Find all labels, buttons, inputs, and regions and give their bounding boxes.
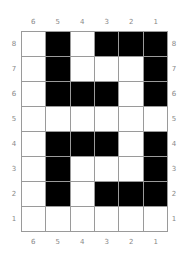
grid-cell-r7-c2 bbox=[119, 57, 142, 81]
grid-cell-r7-c4 bbox=[71, 57, 94, 81]
column-label: 3 bbox=[95, 238, 120, 246]
row-label: 6 bbox=[9, 81, 19, 106]
grid-cell-r3-c3 bbox=[95, 157, 118, 181]
row-label: 4 bbox=[9, 132, 19, 157]
column-label: 6 bbox=[21, 18, 46, 26]
grid-cell-r8-c5 bbox=[46, 32, 69, 56]
row-label: 2 bbox=[169, 182, 179, 207]
grid-cell-r3-c5 bbox=[46, 157, 69, 181]
grid-cell-r7-c6 bbox=[22, 57, 45, 81]
column-labels-top: 6 5 4 3 2 1 bbox=[21, 18, 168, 26]
grid-cell-r5-c3 bbox=[95, 107, 118, 131]
column-label: 3 bbox=[95, 18, 120, 26]
grid-cell-r6-c4 bbox=[71, 82, 94, 106]
grid-cell-r4-c3 bbox=[95, 132, 118, 156]
row-label: 6 bbox=[169, 81, 179, 106]
grid-cell-r5-c5 bbox=[46, 107, 69, 131]
grid-cell-r3-c4 bbox=[71, 157, 94, 181]
grid-cell-r2-c1 bbox=[144, 182, 167, 206]
grid-cell-r8-c1 bbox=[144, 32, 167, 56]
grid-cell-r4-c5 bbox=[46, 132, 69, 156]
column-label: 4 bbox=[70, 238, 95, 246]
grid-cell-r7-c3 bbox=[95, 57, 118, 81]
grid-cell-r8-c2 bbox=[119, 32, 142, 56]
row-label: 7 bbox=[169, 56, 179, 81]
column-label: 5 bbox=[46, 18, 71, 26]
pixel-grid bbox=[21, 31, 168, 232]
row-label: 5 bbox=[169, 106, 179, 131]
row-labels-right: 8 7 6 5 4 3 2 1 bbox=[169, 31, 179, 232]
grid-cell-r7-c1 bbox=[144, 57, 167, 81]
grid-cell-r6-c5 bbox=[46, 82, 69, 106]
grid-cell-r3-c1 bbox=[144, 157, 167, 181]
grid-cell-r1-c6 bbox=[22, 207, 45, 231]
row-label: 8 bbox=[169, 31, 179, 56]
grid-cell-r3-c6 bbox=[22, 157, 45, 181]
row-label: 7 bbox=[9, 56, 19, 81]
grid-cell-r1-c1 bbox=[144, 207, 167, 231]
grid-cell-r1-c4 bbox=[71, 207, 94, 231]
grid-cell-r5-c6 bbox=[22, 107, 45, 131]
grid-cell-r7-c5 bbox=[46, 57, 69, 81]
column-label: 5 bbox=[46, 238, 71, 246]
grid-cell-r2-c2 bbox=[119, 182, 142, 206]
grid-cell-r4-c2 bbox=[119, 132, 142, 156]
grid-cell-r5-c4 bbox=[71, 107, 94, 131]
row-label: 8 bbox=[9, 31, 19, 56]
column-label: 6 bbox=[21, 238, 46, 246]
column-label: 1 bbox=[144, 238, 169, 246]
grid-cell-r5-c1 bbox=[144, 107, 167, 131]
row-label: 5 bbox=[9, 106, 19, 131]
grid-cell-r2-c3 bbox=[95, 182, 118, 206]
grid-cell-r3-c2 bbox=[119, 157, 142, 181]
row-label: 3 bbox=[9, 157, 19, 182]
column-label: 2 bbox=[119, 238, 144, 246]
column-label: 4 bbox=[70, 18, 95, 26]
grid-cell-r8-c6 bbox=[22, 32, 45, 56]
grid-cell-r4-c1 bbox=[144, 132, 167, 156]
grid-cell-r8-c3 bbox=[95, 32, 118, 56]
grid-cell-r1-c3 bbox=[95, 207, 118, 231]
row-label: 1 bbox=[169, 207, 179, 232]
grid-cell-r2-c4 bbox=[71, 182, 94, 206]
grid-cell-r5-c2 bbox=[119, 107, 142, 131]
column-labels-bottom: 6 5 4 3 2 1 bbox=[21, 238, 168, 246]
grid-cell-r6-c6 bbox=[22, 82, 45, 106]
grid-cell-r6-c1 bbox=[144, 82, 167, 106]
grid-cell-r8-c4 bbox=[71, 32, 94, 56]
grid-cell-r6-c2 bbox=[119, 82, 142, 106]
row-label: 2 bbox=[9, 182, 19, 207]
grid-cell-r2-c5 bbox=[46, 182, 69, 206]
row-labels-left: 8 7 6 5 4 3 2 1 bbox=[9, 31, 19, 232]
grid-cell-r4-c6 bbox=[22, 132, 45, 156]
row-label: 4 bbox=[169, 132, 179, 157]
row-label: 1 bbox=[9, 207, 19, 232]
row-label: 3 bbox=[169, 157, 179, 182]
column-label: 2 bbox=[119, 18, 144, 26]
column-label: 1 bbox=[144, 18, 169, 26]
grid-cell-r6-c3 bbox=[95, 82, 118, 106]
grid-cell-r4-c4 bbox=[71, 132, 94, 156]
grid-cell-r1-c5 bbox=[46, 207, 69, 231]
grid-cell-r1-c2 bbox=[119, 207, 142, 231]
grid-cell-r2-c6 bbox=[22, 182, 45, 206]
